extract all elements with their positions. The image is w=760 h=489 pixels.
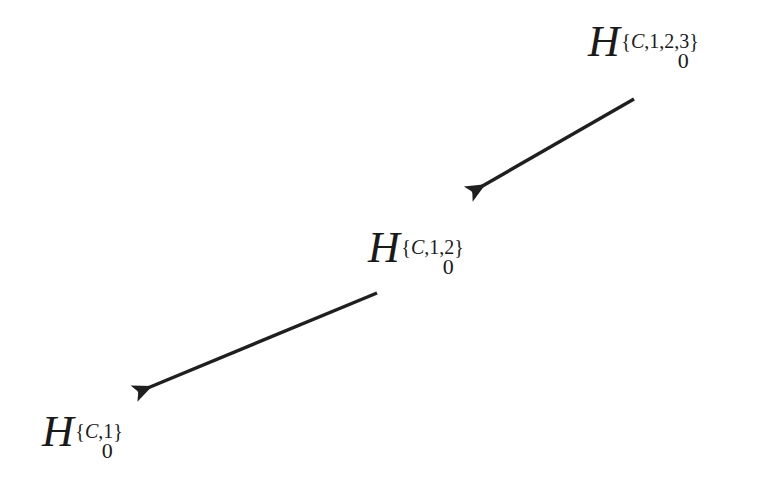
superscript-set-variable: C [411, 236, 424, 258]
superscript-set-variable: C [631, 30, 644, 52]
superscript-open-brace: { [621, 30, 631, 52]
superscript-open-brace: { [401, 236, 411, 258]
node-base-letter: H [588, 17, 620, 66]
node-subscript: 0 [678, 48, 689, 73]
diagram-canvas: H{C,1,2,3}0 H{C,1,2}0 H{C,1}0 [0, 0, 760, 489]
superscript-open-brace: { [75, 420, 85, 442]
superscript-close-brace: } [689, 30, 699, 52]
arrow-top-to-middle [472, 99, 634, 192]
node-h0-c1: H{C,1}0 [42, 410, 133, 454]
superscript-close-brace: } [454, 236, 464, 258]
superscript-close-brace: } [113, 420, 123, 442]
node-base-letter: H [42, 407, 74, 456]
node-superscript: {C,1} [75, 420, 123, 442]
node-superscript: {C,1,2} [401, 236, 464, 258]
superscript-set-variable: C [85, 420, 98, 442]
arrow-middle-to-bottom [138, 293, 377, 392]
node-subscript: 0 [443, 254, 454, 279]
node-h0-c12: H{C,1,2}0 [368, 226, 474, 270]
node-base-letter: H [368, 223, 400, 272]
node-h0-c123: H{C,1,2,3}0 [588, 20, 709, 64]
node-subscript: 0 [102, 438, 113, 463]
